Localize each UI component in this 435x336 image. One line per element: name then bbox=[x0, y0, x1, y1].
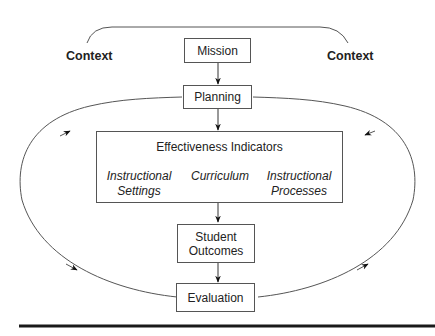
student-outcomes-line1: Student bbox=[195, 230, 236, 244]
context-label-right: Context bbox=[327, 49, 374, 63]
student-outcomes-box: Student Outcomes bbox=[177, 224, 255, 263]
context-label-left: Context bbox=[66, 49, 113, 63]
effectiveness-indicators-box: Effectiveness Indicators Instructional S… bbox=[96, 131, 343, 203]
planning-box: Planning bbox=[183, 85, 252, 109]
evaluation-label: Evaluation bbox=[187, 291, 243, 305]
left-upper-arrowhead-icon bbox=[60, 131, 70, 136]
right-lower-arrowhead-icon bbox=[357, 264, 368, 270]
mission-box: Mission bbox=[184, 38, 251, 63]
effectiveness-indicators-title: Effectiveness Indicators bbox=[97, 140, 342, 154]
indicator-curriculum: Curriculum bbox=[183, 169, 257, 184]
student-outcomes-line2: Outcomes bbox=[189, 244, 244, 258]
planning-label: Planning bbox=[194, 90, 241, 104]
indicator-instructional-processes: Instructional Processes bbox=[261, 169, 337, 199]
right-upper-arrowhead-icon bbox=[365, 131, 375, 135]
evaluation-box: Evaluation bbox=[176, 283, 255, 312]
indicator-instructional-settings: Instructional Settings bbox=[103, 169, 175, 199]
mission-label: Mission bbox=[197, 44, 238, 58]
